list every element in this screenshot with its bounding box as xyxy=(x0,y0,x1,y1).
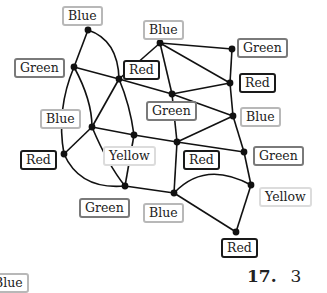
edge xyxy=(174,174,251,193)
graph-node xyxy=(174,139,181,146)
edge xyxy=(119,79,172,94)
graph-node xyxy=(233,229,240,236)
color-label-red: Red xyxy=(183,150,220,170)
graph-node xyxy=(131,132,138,139)
edge xyxy=(119,79,134,135)
edge xyxy=(134,135,177,142)
graph-node xyxy=(241,149,248,156)
color-label-red: Red xyxy=(221,238,258,258)
edge xyxy=(236,185,251,232)
graph-node xyxy=(61,151,68,158)
edge xyxy=(74,30,88,67)
color-label-blue: Blue xyxy=(62,6,103,26)
color-label-green: Green xyxy=(146,101,197,121)
problem-number: 17.3 xyxy=(247,266,301,286)
color-label-red: Red xyxy=(239,73,276,93)
color-label-blue: Blue xyxy=(40,109,81,129)
edge xyxy=(230,83,233,116)
edge xyxy=(64,127,92,154)
edge xyxy=(92,79,119,127)
graph-node xyxy=(89,124,96,131)
graph-node xyxy=(229,46,236,53)
graph-node xyxy=(248,182,255,189)
edge xyxy=(160,43,232,49)
color-label-green: Green xyxy=(237,38,288,58)
problem-index: 17. xyxy=(247,266,277,286)
problem-answer: 3 xyxy=(291,266,302,286)
edge xyxy=(92,127,134,135)
graph-node xyxy=(85,27,92,34)
graph-node xyxy=(230,113,237,120)
graph-node xyxy=(227,80,234,87)
color-label-green: Green xyxy=(14,58,65,78)
edge xyxy=(174,142,177,193)
color-label-green: Green xyxy=(253,146,304,166)
color-label-green: Green xyxy=(79,198,130,218)
edge xyxy=(230,49,232,83)
edge xyxy=(172,83,230,94)
edge xyxy=(125,186,174,193)
edge xyxy=(160,43,230,83)
color-label-blue: Blue xyxy=(143,20,184,40)
color-label-red: Red xyxy=(123,60,160,80)
edge xyxy=(244,152,251,185)
graph-node xyxy=(122,183,129,190)
edge xyxy=(74,67,119,79)
color-label-yellow: Yellow xyxy=(103,146,156,166)
color-label-blue: Blue xyxy=(240,107,281,127)
cropped-blue-label: Blue xyxy=(0,273,29,293)
edge xyxy=(160,43,172,94)
color-label-blue: Blue xyxy=(143,203,184,223)
graph-node xyxy=(169,91,176,98)
graph-node xyxy=(171,190,178,197)
graph-node xyxy=(116,76,123,83)
color-label-yellow: Yellow xyxy=(259,187,312,207)
graph-node xyxy=(71,64,78,71)
graph-node xyxy=(157,40,164,47)
color-label-red: Red xyxy=(20,150,57,170)
